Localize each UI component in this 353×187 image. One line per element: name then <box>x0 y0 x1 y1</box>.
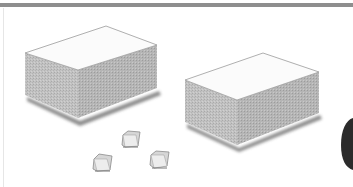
large-box-left <box>25 26 161 126</box>
dark-rounded-shape <box>341 118 353 170</box>
large-box-right <box>185 53 322 152</box>
small-cube-right <box>150 151 169 168</box>
illustration-canvas <box>0 0 353 187</box>
small-cube-top <box>122 131 140 147</box>
small-cube-left <box>93 154 112 171</box>
